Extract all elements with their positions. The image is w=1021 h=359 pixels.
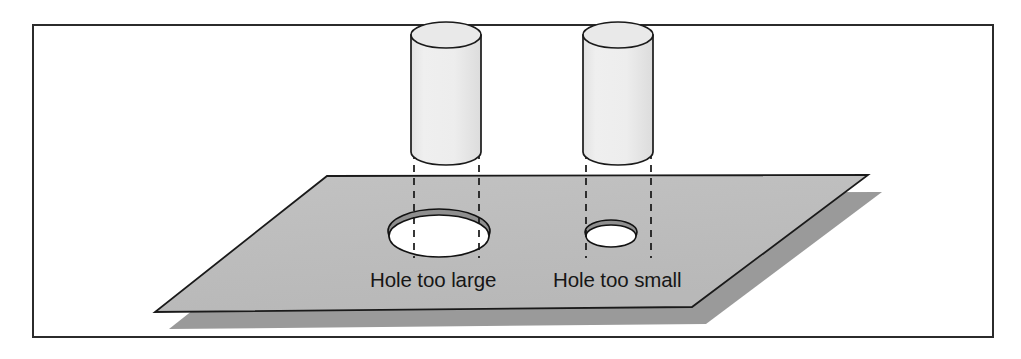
right-cylinder-top-face bbox=[583, 22, 653, 48]
small-hole bbox=[585, 220, 637, 247]
left-cylinder-top-face bbox=[411, 22, 481, 48]
hole-too-large-label: Hole too large bbox=[370, 268, 496, 291]
right-cylinder bbox=[583, 22, 653, 165]
hole-too-small-label: Hole too small bbox=[553, 268, 682, 291]
right-cylinder-body bbox=[583, 35, 653, 165]
large-hole-opening bbox=[389, 215, 489, 257]
figure-root: Hole too large Hole too small bbox=[0, 0, 1021, 359]
hole-fit-illustration: Hole too large Hole too small bbox=[0, 0, 1021, 359]
small-hole-opening bbox=[586, 225, 636, 247]
left-cylinder-body bbox=[411, 35, 481, 165]
left-cylinder bbox=[411, 22, 481, 165]
large-hole bbox=[388, 209, 490, 257]
